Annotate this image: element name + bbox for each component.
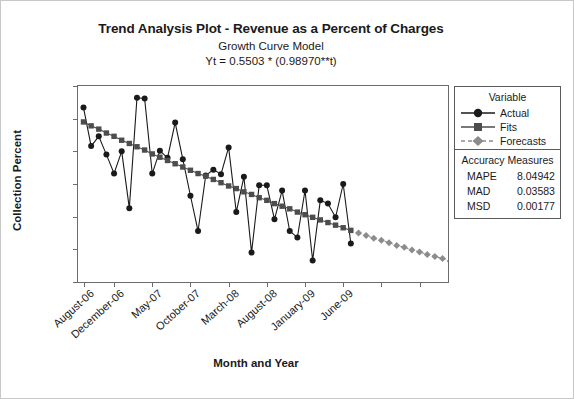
data-point — [264, 198, 269, 203]
y-tick-mark — [73, 184, 78, 185]
data-point — [172, 120, 178, 126]
data-point — [126, 205, 132, 211]
legend-variable: Variable Actual Fits Forecasts — [454, 86, 561, 154]
data-point — [81, 105, 87, 111]
data-point — [119, 138, 124, 143]
data-point — [195, 228, 201, 234]
legend-item-actual[interactable]: Actual — [455, 106, 560, 120]
accuracy-row-mape: MAPE 8.04942 — [455, 168, 560, 183]
data-point — [142, 147, 147, 152]
legend-key-diamond-icon — [459, 134, 497, 148]
x-axis-title: Month and Year — [61, 357, 451, 369]
accuracy-name-mape: MAPE — [455, 170, 517, 182]
legend-item-forecasts[interactable]: Forecasts — [455, 134, 560, 148]
data-point — [348, 228, 353, 233]
accuracy-value-mad: 0.03583 — [517, 185, 560, 197]
y-axis-title: Collection Percent — [5, 111, 29, 251]
data-point — [408, 246, 415, 253]
data-point — [310, 257, 316, 263]
legend-item-fits[interactable]: Fits — [455, 120, 560, 134]
data-point — [111, 171, 117, 177]
data-point — [96, 133, 102, 139]
data-point — [157, 155, 162, 160]
accuracy-value-msd: 0.00177 — [517, 200, 560, 212]
trend-analysis-chart: Trend Analysis Plot - Revenue as a Perce… — [0, 0, 574, 399]
chart-title-block: Trend Analysis Plot - Revenue as a Perce… — [1, 21, 541, 67]
accuracy-row-mad: MAD 0.03583 — [455, 183, 560, 198]
data-point — [378, 237, 385, 244]
data-point — [180, 164, 185, 169]
legend-key-circle-icon — [459, 106, 497, 120]
data-point — [287, 228, 293, 234]
data-point — [325, 220, 330, 225]
data-point — [111, 134, 116, 139]
accuracy-name-msd: MSD — [455, 200, 517, 212]
x-tick-mark — [229, 282, 230, 287]
legend-label-actual: Actual — [500, 107, 529, 119]
data-point — [226, 183, 231, 188]
data-point — [447, 258, 448, 265]
data-point — [142, 95, 148, 101]
legend-key-square-icon — [459, 120, 497, 134]
y-tick-mark — [73, 249, 78, 250]
data-point — [325, 201, 331, 207]
plot-area — [77, 85, 449, 283]
y-tick-mark — [73, 119, 78, 120]
data-point — [165, 158, 170, 163]
y-tick-mark — [73, 86, 78, 87]
data-point — [134, 144, 139, 149]
y-tick-mark — [73, 151, 78, 152]
data-point — [218, 171, 224, 177]
accuracy-value-mape: 8.04942 — [517, 170, 560, 182]
data-point — [187, 193, 193, 199]
legend-label-forecasts: Forecasts — [500, 135, 546, 147]
page-title: Trend Analysis Plot - Revenue as a Perce… — [1, 21, 541, 36]
x-tick-label: May-07 — [129, 287, 164, 320]
data-point — [88, 143, 94, 149]
data-point — [233, 209, 239, 215]
data-point — [302, 188, 308, 194]
data-point — [226, 144, 232, 150]
legend-label-fits: Fits — [500, 121, 517, 133]
data-point — [355, 230, 362, 237]
data-point — [211, 177, 216, 182]
data-point — [341, 225, 346, 230]
data-point — [180, 156, 186, 162]
series-actual — [81, 95, 354, 264]
data-point — [172, 161, 177, 166]
x-tick-label: June-09 — [318, 287, 356, 323]
data-point — [103, 152, 109, 158]
series-fits — [81, 119, 354, 233]
x-tick-mark — [305, 282, 306, 287]
legend-variable-header: Variable — [455, 91, 560, 103]
data-point — [149, 171, 155, 177]
data-point — [241, 174, 247, 180]
legend-accuracy-measures: Accuracy Measures MAPE 8.04942 MAD 0.035… — [454, 149, 561, 219]
x-tick-mark — [343, 282, 344, 287]
data-point — [104, 130, 109, 135]
data-point — [295, 209, 300, 214]
data-point — [195, 171, 200, 176]
data-point — [318, 217, 323, 222]
data-point — [363, 232, 370, 239]
data-point — [234, 186, 239, 191]
chart-equation-annotation: Yt = 0.5503 * (0.98970**t) — [1, 55, 541, 67]
data-point — [393, 242, 400, 249]
data-point — [424, 251, 431, 258]
data-point — [333, 222, 338, 227]
data-point — [134, 95, 140, 101]
data-point — [249, 250, 255, 256]
data-point — [310, 215, 315, 220]
data-point — [150, 151, 155, 156]
series-forecasts — [355, 230, 448, 276]
data-point — [203, 173, 208, 178]
accuracy-name-mad: MAD — [455, 185, 517, 197]
y-tick-mark — [73, 217, 78, 218]
data-point — [348, 240, 354, 246]
x-tick-mark — [152, 282, 153, 287]
data-point — [271, 216, 277, 222]
data-point — [302, 212, 307, 217]
data-point — [249, 192, 254, 197]
data-point — [188, 168, 193, 173]
data-point — [96, 126, 101, 131]
